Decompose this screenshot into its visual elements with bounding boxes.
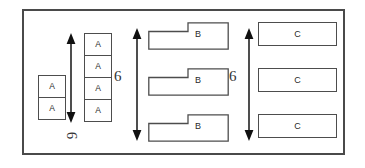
dimension-label-middle: 6	[229, 69, 237, 84]
block-b-shape: B	[148, 114, 229, 142]
block-a: A	[38, 75, 66, 98]
block-c: C	[258, 68, 337, 92]
block-b-shape: B	[148, 22, 229, 50]
block-c: C	[258, 22, 337, 46]
block-a: A	[84, 55, 112, 78]
annotation-rotated-six: 6	[64, 129, 79, 143]
dimension-label-left: 6	[114, 69, 122, 84]
block-a: A	[84, 33, 112, 56]
diagram-canvas: A A A A A A 6 6 B	[0, 0, 365, 168]
dimension-arrow-right	[242, 28, 256, 141]
dimension-arrow-middle	[130, 28, 144, 141]
block-b-label: B	[195, 30, 201, 39]
block-b-shape: B	[148, 68, 229, 96]
block-b-label: B	[195, 76, 201, 85]
block-a: A	[38, 97, 66, 120]
block-c: C	[258, 114, 337, 138]
block-b-label: B	[195, 122, 201, 131]
dimension-arrow-left	[64, 33, 78, 123]
block-a: A	[84, 99, 112, 122]
block-a: A	[84, 77, 112, 100]
